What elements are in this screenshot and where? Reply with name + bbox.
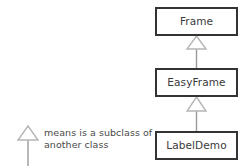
legend-text-line-2: another class: [44, 139, 148, 151]
hollow-triangle-arrow-icon: [18, 126, 38, 140]
inheritance-arrow-icon-easyframe-to-frame: [187, 36, 206, 49]
class-label-easyframe: EasyFrame: [167, 77, 225, 88]
class-hierarchy-diagram: Frame --> EasyFrame --> Frame EasyFrame …: [0, 0, 246, 166]
class-box-frame[interactable]: Frame: [155, 7, 238, 36]
legend-text-line-1: means is a subclass of: [44, 127, 148, 139]
class-box-easyframe[interactable]: EasyFrame: [155, 68, 238, 97]
legend-text: means is a subclass of another class: [44, 127, 148, 151]
class-box-labeldemo[interactable]: LabelDemo: [155, 131, 238, 160]
class-label-frame: Frame: [180, 16, 213, 27]
inheritance-arrow-icon-labeldemo-to-easyframe: [187, 97, 206, 111]
class-label-labeldemo: LabelDemo: [166, 140, 226, 151]
legend: means is a subclass of another class: [0, 0, 150, 166]
